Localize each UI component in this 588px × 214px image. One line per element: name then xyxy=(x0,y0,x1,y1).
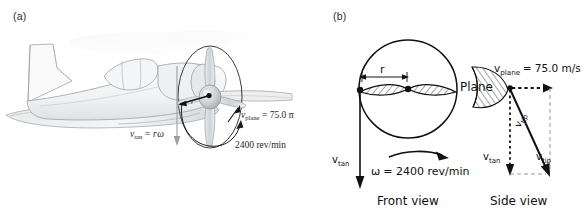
omega-label-front: ω= 2400 rev/min xyxy=(371,165,469,178)
propeller-blade-right-front xyxy=(408,85,456,95)
side-view-group: Plane vplane= 75.0 m/s vtan xyxy=(460,62,581,208)
radius-label-a: r xyxy=(191,97,194,106)
panel-b-illustration: r vtan ω= 2400 rev/min Front view xyxy=(294,0,588,214)
plane-label-side: Plane xyxy=(460,80,493,94)
panel-a-illustration: r vtan= rω vplane= 75.0 m/s 240 xyxy=(0,0,294,214)
v-tan-label-side: vtan xyxy=(483,151,500,165)
v-tan-subscript-a: tan xyxy=(134,133,143,140)
front-view-group: r vtan ω= 2400 rev/min Front view xyxy=(332,40,469,208)
v-tan-omega-a: ω xyxy=(157,129,164,139)
v-plane-subscript-a: plane xyxy=(245,114,259,121)
v-tan-label-a: vtan= rω xyxy=(130,129,164,140)
front-view-caption: Front view xyxy=(377,194,439,208)
v-plane-arrow-side xyxy=(512,83,553,92)
v-tan-arrow-side xyxy=(506,90,514,176)
svg-text:vplane= 75.0 m/s: vplane= 75.0 m/s xyxy=(241,110,294,121)
rotation-arrow-front xyxy=(389,151,449,160)
v-tan-label-front: vtan xyxy=(332,154,349,168)
v-tan-equals-a: = r xyxy=(144,129,157,139)
v-tan-arrow-front xyxy=(356,90,365,189)
v-plane-label-side: vplane= 75.0 m/s xyxy=(494,62,581,77)
v-plane-label-a: vplane= 75.0 m/s xyxy=(241,110,294,121)
v-plane-value-a: = 75.0 m/s xyxy=(262,110,294,120)
radius-dimension-front: r xyxy=(359,63,409,82)
propeller-blade-left-front xyxy=(360,85,408,95)
hub-dot-front xyxy=(405,86,411,92)
v-tip-label-side: vtip xyxy=(536,151,552,165)
svg-text:vtan= rω: vtan= rω xyxy=(130,129,164,140)
physics-figure: (a) (b) xyxy=(0,0,588,214)
rpm-label-a: 2400 rev/min xyxy=(235,140,286,150)
side-view-caption: Side view xyxy=(490,194,548,208)
radius-label-front: r xyxy=(380,63,385,76)
aircraft-tail-fin xyxy=(28,44,72,102)
